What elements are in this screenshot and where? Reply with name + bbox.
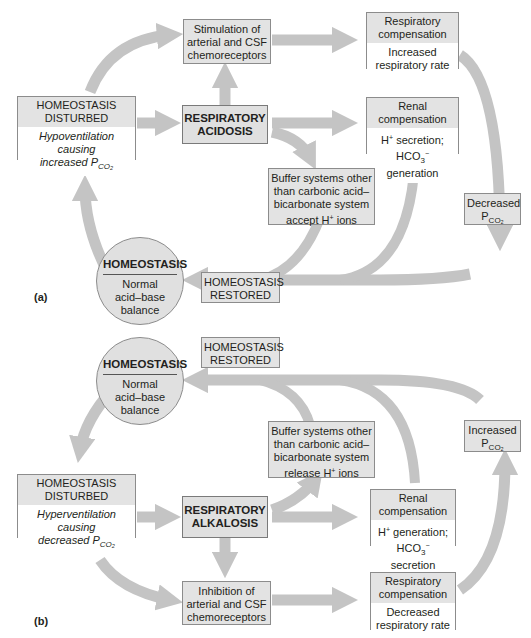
disturbed-body: Hyperventilation causing decreased PCO₂ [18, 505, 135, 554]
resp-comp-body: Increasedrespiratory rate [367, 43, 458, 75]
homeostasis-body: Normal acid–base balance [97, 375, 183, 417]
disturbed-header: HOMEOSTASIS DISTURBED [18, 97, 135, 127]
arrow-condition-to-buffer-a [272, 132, 310, 158]
respiratory-acidosis-box: RESPIRATORYACIDOSIS [182, 105, 268, 144]
homeostasis-title: HOMEOSTASIS [103, 358, 177, 375]
homeostasis-restored-box-b: HOMEOSTASIS RESTORED [201, 337, 280, 368]
arrow-condition-to-buffer-b [272, 480, 315, 510]
body-line: increased PCO₂ [20, 156, 133, 173]
renal-body: H+ secretion; HCO3− generation [367, 128, 458, 183]
renal-body: H+ generation; HCO3− secretion [371, 520, 455, 575]
homeostasis-circle-a: HOMEOSTASIS Normal acid–base balance [96, 237, 184, 325]
resp-comp-header: Respiratorycompensation [367, 13, 458, 43]
respiratory-alkalosis-box: RESPIRATORYALKALOSIS [182, 496, 268, 538]
panel-label-a: (a) [34, 291, 47, 303]
chemo-line: arterial and CSF [186, 36, 268, 49]
homeostasis-restored-box-a: HOMEOSTASIS RESTORED [201, 272, 280, 303]
homeostasis-body: Normal acid–base balance [97, 275, 183, 317]
chemoreceptors-box-a: Stimulation of arterial and CSF chemorec… [183, 19, 271, 64]
condition-line: RESPIRATORY [184, 112, 266, 125]
homeostasis-circle-b: HOMEOSTASIS Normal acid–base balance [96, 337, 184, 425]
arrow-to-homeostasis-b [195, 380, 480, 400]
chemo-line: Stimulation of [186, 23, 268, 36]
renal-compensation-box-b: Renalcompensation H+ generation; HCO3− s… [370, 489, 456, 546]
resp-comp-body: Decreasedrespiratory rate [371, 603, 455, 635]
increased-pco2-box: Increased PCO₂ [464, 420, 521, 452]
homeostasis-disturbed-box-b: HOMEOSTASIS DISTURBED Hyperventilation c… [17, 474, 136, 538]
homeostasis-title: HOMEOSTASIS [103, 258, 177, 275]
respiratory-compensation-box-a: Respiratorycompensation Increasedrespira… [366, 12, 459, 69]
homeostasis-disturbed-box-a: HOMEOSTASIS DISTURBED Hypoventilation ca… [17, 96, 136, 160]
respiratory-compensation-box-b: Respiratorycompensation Decreasedrespira… [370, 572, 456, 630]
renal-header: Renalcompensation [367, 98, 458, 128]
arrow-respcomp-to-pco2-b [460, 462, 505, 590]
decreased-pco2-box: Decreased PCO₂ [464, 193, 521, 225]
resp-comp-header: Respiratorycompensation [371, 573, 455, 603]
renal-compensation-box-a: Renalcompensation H+ secretion; HCO3− ge… [366, 97, 459, 154]
arrow-disturbed-to-chemo-b [100, 560, 170, 600]
chemoreceptors-box-b: Inhibition of arterial and CSF chemorece… [182, 581, 271, 625]
condition-line: ACIDOSIS [184, 125, 266, 138]
disturbed-header: HOMEOSTASIS DISTURBED [18, 475, 135, 505]
arrow-disturbed-to-chemo-a [90, 35, 170, 92]
buffer-systems-box-b: Buffer systems other than carbonic acid–… [268, 421, 375, 478]
body-line: causing [20, 143, 133, 156]
disturbed-body: Hypoventilation causing increased PCO₂ [18, 127, 135, 176]
chemo-line: chemoreceptors [186, 49, 268, 62]
renal-header: Renalcompensation [371, 490, 455, 520]
panel-label-b: (b) [34, 615, 48, 627]
body-line: Hypoventilation [20, 130, 133, 143]
buffer-systems-box-a: Buffer systems other than carbonic acid–… [268, 168, 375, 225]
